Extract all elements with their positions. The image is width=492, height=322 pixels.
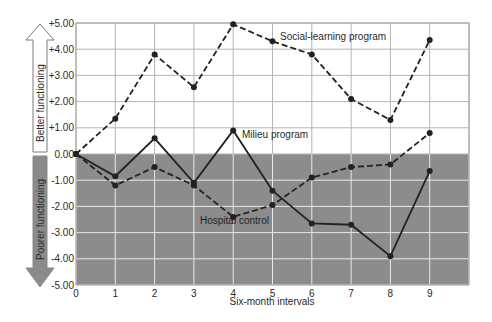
data-point <box>309 175 315 181</box>
y-tick-label: +5.00 <box>49 18 75 29</box>
data-point <box>270 188 276 194</box>
data-point <box>112 173 118 179</box>
y-tick-label: -1.00 <box>51 175 74 186</box>
data-point <box>112 182 118 188</box>
data-point <box>348 164 354 170</box>
data-point <box>191 182 197 188</box>
y-tick-label: +4.00 <box>49 44 75 55</box>
data-point <box>348 96 354 102</box>
data-point <box>309 220 315 226</box>
data-point <box>270 202 276 208</box>
y-tick-label: +2.00 <box>49 96 75 107</box>
data-point <box>112 116 118 122</box>
better-functioning-label: Better functioning <box>35 64 46 142</box>
data-point <box>387 253 393 259</box>
y-tick-label: +1.00 <box>49 122 75 133</box>
data-point <box>309 51 315 57</box>
data-point <box>230 21 236 27</box>
series-label-social-learning: Social-learning program <box>280 31 386 42</box>
data-point <box>230 127 236 133</box>
data-point <box>152 135 158 141</box>
y-tick-label: -5.00 <box>51 280 74 291</box>
y-tick-label: -4.00 <box>51 253 74 264</box>
data-point <box>427 130 433 136</box>
y-tick-label: 0.00 <box>55 149 75 160</box>
data-point <box>152 51 158 57</box>
data-point <box>427 37 433 43</box>
y-axis-ticks: +5.00+4.00+3.00+2.00+1.000.00-1.00-2.00-… <box>49 18 75 291</box>
x-tick-label: 7 <box>348 288 354 299</box>
y-tick-label: -3.00 <box>51 227 74 238</box>
x-tick-label: 0 <box>73 288 79 299</box>
y-tick-label: -2.00 <box>51 201 74 212</box>
x-tick-label: 8 <box>388 288 394 299</box>
x-tick-label: 2 <box>152 288 158 299</box>
x-tick-label: 1 <box>113 288 119 299</box>
poorer-functioning-label: Poorer functioning <box>35 179 46 260</box>
line-chart: Better functioning Poorer functioning +5… <box>0 0 492 322</box>
data-point <box>427 168 433 174</box>
x-tick-label: 9 <box>427 288 433 299</box>
series-label-hospital-control: Hospital control <box>200 215 269 226</box>
y-tick-label: +3.00 <box>49 70 75 81</box>
plot-area <box>73 21 469 285</box>
data-point <box>387 117 393 123</box>
series-label-milieu: Milieu program <box>242 129 308 140</box>
x-tick-label: 3 <box>191 288 197 299</box>
data-point <box>191 84 197 90</box>
data-point <box>387 161 393 167</box>
x-axis-label: Six-month intervals <box>229 296 314 307</box>
data-point <box>348 222 354 228</box>
data-point <box>152 164 158 170</box>
data-point <box>270 38 276 44</box>
